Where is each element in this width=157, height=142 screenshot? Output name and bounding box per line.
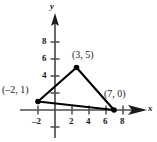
label-right-vertex: (7, 0) <box>104 89 126 99</box>
label-apex-vertex: (3, 5) <box>72 50 94 60</box>
coordinate-plane-figure: y x –2 2 4 6 8 4 6 8 (–2, 1) (3, 5) (7, … <box>0 0 157 142</box>
x-tick-label-eight: 8 <box>120 117 125 126</box>
triangle-shape <box>38 68 114 111</box>
point-marker-right-vertex <box>111 107 117 113</box>
y-tick-label-eight: 8 <box>42 37 47 46</box>
x-tick-label-four: 4 <box>86 117 91 126</box>
triangle-plot <box>0 0 157 142</box>
x-tick-label-two: 2 <box>69 117 74 126</box>
y-tick-label-six: 6 <box>42 54 47 63</box>
x-axis-label: x <box>148 104 153 113</box>
label-left-vertex: (–2, 1) <box>2 85 29 95</box>
x-tick-label-six: 6 <box>103 117 108 126</box>
x-tick-label-neg-two: –2 <box>32 117 41 126</box>
point-marker-left-vertex <box>35 99 41 105</box>
y-axis-label: y <box>50 2 54 11</box>
point-marker-apex-vertex <box>74 65 80 71</box>
y-tick-label-four: 4 <box>42 71 47 80</box>
